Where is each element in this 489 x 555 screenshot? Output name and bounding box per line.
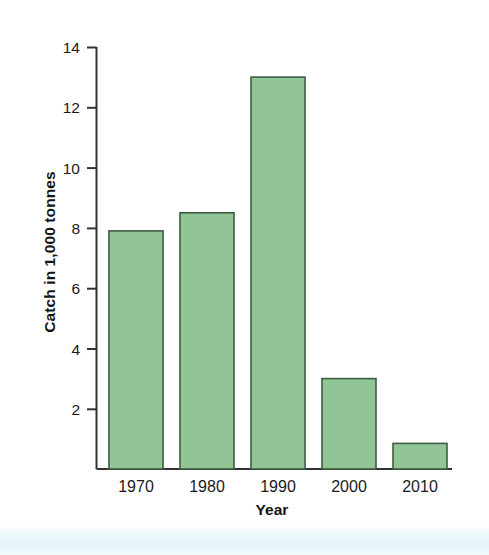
bar-series — [109, 77, 447, 469]
y-tick-label: 10 — [63, 160, 81, 177]
x-tick-label: 2010 — [402, 478, 438, 495]
bar-2000 — [322, 379, 376, 469]
bar-1980 — [180, 213, 234, 469]
y-axis-ticks — [87, 48, 97, 410]
bar-1990 — [251, 77, 305, 469]
y-tick-label: 6 — [71, 280, 80, 297]
y-tick-label: 8 — [71, 220, 80, 237]
x-tick-label: 1980 — [189, 478, 225, 495]
bar-2010 — [393, 443, 447, 469]
bar-chart-plot: 14 12 10 8 6 4 2 1970 1980 1990 2000 201… — [0, 0, 489, 555]
x-tick-label: 1990 — [260, 478, 296, 495]
chart-figure: Catch in 1,000 tonnes Year 14 12 10 8 6 … — [0, 0, 489, 555]
y-tick-label: 12 — [63, 99, 80, 116]
x-tick-label: 1970 — [118, 478, 154, 495]
x-axis-tick-labels: 1970 1980 1990 2000 2010 — [118, 478, 438, 495]
bar-1970 — [109, 231, 163, 469]
page-bottom-band — [0, 525, 489, 555]
x-tick-label: 2000 — [331, 478, 367, 495]
y-axis-tick-labels: 14 12 10 8 6 4 2 — [63, 39, 81, 418]
y-tick-label: 2 — [71, 401, 80, 418]
y-tick-label: 4 — [71, 341, 80, 358]
y-tick-label: 14 — [63, 39, 81, 56]
